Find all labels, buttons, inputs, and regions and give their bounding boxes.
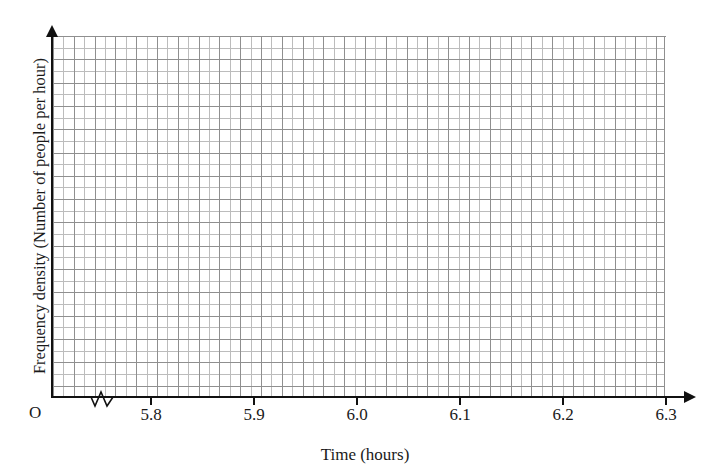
x-tick-label: 6.3 bbox=[631, 404, 701, 426]
x-tick-label: 6.2 bbox=[528, 404, 598, 426]
x-tick-label: 5.9 bbox=[219, 404, 289, 426]
x-tick-label: 6.1 bbox=[425, 404, 495, 426]
y-axis-line bbox=[51, 36, 53, 398]
histogram-grid-figure: 5.8 5.9 6.0 6.1 6.2 6.3 O Frequency dens… bbox=[0, 0, 713, 475]
x-axis-title: Time (hours) bbox=[0, 444, 713, 466]
plot-grid-top-edge bbox=[53, 36, 666, 37]
plot-grid-area bbox=[53, 36, 665, 397]
y-axis-title: Frequency density (Number of people per … bbox=[30, 26, 50, 406]
x-axis-arrow-icon bbox=[684, 391, 696, 403]
top-caption-cutoff bbox=[38, 0, 638, 3]
x-tick-label: 6.0 bbox=[322, 404, 392, 426]
x-axis-line bbox=[53, 396, 685, 398]
x-tick-label: 5.8 bbox=[116, 404, 186, 426]
